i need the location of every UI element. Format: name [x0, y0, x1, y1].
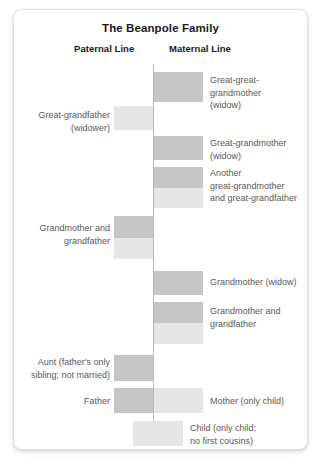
- bar-segment-light: [154, 388, 203, 413]
- label-maternal-grandparents: Grandmother and grandfather: [210, 305, 308, 330]
- label-great-grandmother: Great-grandmother (widow): [210, 137, 308, 162]
- bar-great-grandmother: [154, 136, 203, 160]
- bar-paternal-grandparents: [114, 216, 153, 259]
- label-father: Father: [22, 395, 110, 408]
- label-great-grandfather: Great-grandfather (widower): [22, 109, 110, 134]
- bar-segment-light: [154, 323, 203, 344]
- label-great-great-grandmother: Great-great-grandmother (widow): [210, 74, 308, 112]
- bar-segment-dark: [154, 271, 203, 295]
- bar-segment-dark: [114, 216, 153, 238]
- bar-father: [114, 388, 153, 413]
- label-another-great-grandparents: Another great-grandmother and great-gran…: [210, 167, 308, 205]
- bar-mother: [154, 388, 203, 413]
- bar-maternal-grandmother-widow: [154, 271, 203, 295]
- column-header-maternal: Maternal Line: [169, 43, 231, 54]
- bar-maternal-grandparents: [154, 302, 203, 344]
- bar-segment-light: [114, 238, 153, 259]
- bar-great-grandfather: [114, 106, 153, 130]
- bar-segment-light: [133, 421, 183, 446]
- bar-segment-dark: [154, 302, 203, 323]
- label-maternal-grandmother-widow: Grandmother (widow): [210, 276, 308, 289]
- bar-segment-dark: [154, 167, 203, 188]
- bar-segment-dark: [154, 136, 203, 160]
- label-child: Child (only child; no first cousins): [190, 422, 300, 447]
- label-mother: Mother (only child): [210, 395, 308, 408]
- bar-segment-light: [154, 188, 203, 208]
- bar-another-great-grandparents: [154, 167, 203, 208]
- generation-center-line: [153, 65, 154, 440]
- label-paternal-grandparents: Grandmother and grandfather: [22, 222, 110, 247]
- page-title: The Beanpole Family: [14, 22, 307, 34]
- family-diagram-card: The Beanpole Family Paternal Line Matern…: [13, 9, 308, 450]
- bar-segment-dark: [114, 355, 153, 381]
- bar-great-great-grandmother: [154, 72, 203, 102]
- column-header-paternal: Paternal Line: [74, 43, 134, 54]
- bar-child: [133, 421, 183, 446]
- bar-segment-light: [114, 106, 153, 130]
- bar-segment-dark: [114, 388, 153, 413]
- bar-segment-dark: [154, 72, 203, 102]
- bar-aunt: [114, 355, 153, 381]
- label-aunt: Aunt (father's only sibling; not married…: [22, 356, 110, 381]
